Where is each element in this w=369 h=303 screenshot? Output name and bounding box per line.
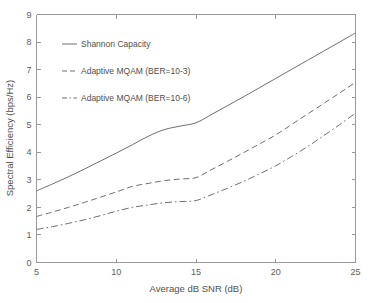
- x-tick-labels: 510152025: [34, 267, 361, 277]
- chart-canvas: 510152025 0123456789 Shannon CapacityAda…: [0, 0, 369, 303]
- y-tick-label: 5: [26, 120, 31, 130]
- y-axis-label: Spectral Efficiency (bps/Hz): [4, 80, 15, 197]
- y-tick-label: 6: [26, 92, 31, 102]
- data-series-group: [37, 33, 356, 229]
- series-line-0: [37, 33, 356, 191]
- x-axis-label: Average dB SNR (dB): [150, 283, 243, 294]
- x-tick-label: 25: [350, 267, 360, 277]
- x-tick-label: 15: [191, 267, 201, 277]
- x-tick-label: 5: [34, 267, 39, 277]
- y-tick-label: 4: [26, 147, 31, 157]
- y-tick-label: 7: [26, 65, 31, 75]
- y-tick-label: 8: [26, 37, 31, 47]
- chart-figure: 510152025 0123456789 Shannon CapacityAda…: [0, 0, 369, 303]
- axes-group: [37, 15, 356, 263]
- x-tick-label: 10: [111, 267, 121, 277]
- y-tick-label: 3: [26, 175, 31, 185]
- x-tick-label: 20: [271, 267, 281, 277]
- y-tick-label: 1: [26, 230, 31, 240]
- series-line-2: [37, 113, 356, 229]
- legend-label-1: Adaptive MQAM (BER=10-3): [81, 66, 191, 76]
- legend-label-0: Shannon Capacity: [81, 39, 151, 49]
- y-tick-label: 2: [26, 203, 31, 213]
- y-tick-label: 0: [26, 258, 31, 268]
- chart-legend: Shannon CapacityAdaptive MQAM (BER=10-3)…: [62, 39, 191, 103]
- legend-label-2: Adaptive MQAM (BER=10-6): [81, 93, 191, 103]
- y-tick-labels: 0123456789: [26, 10, 31, 268]
- y-tick-label: 9: [26, 10, 31, 20]
- tick-marks-group: [37, 15, 356, 263]
